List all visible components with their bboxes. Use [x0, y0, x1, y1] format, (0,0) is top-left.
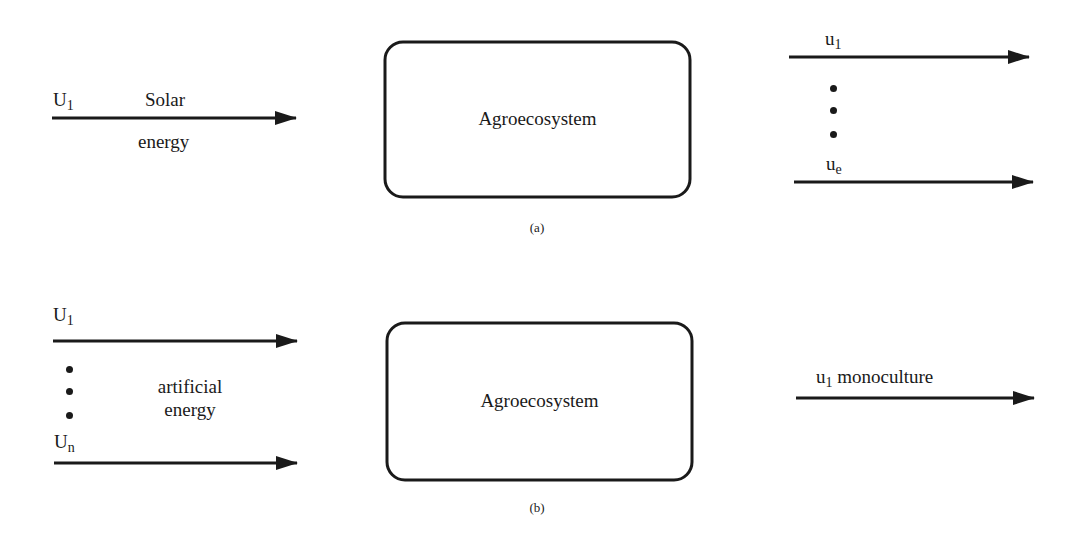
ellipsis-dot — [66, 388, 73, 395]
diagram-canvas — [0, 0, 1091, 540]
input-symbol-U1-a: U1 — [53, 90, 74, 113]
energy-label-b: energy — [130, 400, 250, 419]
output-symbol-ue: ue — [826, 154, 842, 177]
ellipsis-dot — [66, 366, 73, 373]
ellipsis-dot — [830, 85, 837, 92]
ellipsis-dot — [830, 131, 837, 138]
agroecosystem-label-a: Agroecosystem — [385, 108, 690, 130]
output-symbol-u1-monoculture: u1 monoculture — [816, 367, 933, 390]
ellipsis-dot — [66, 412, 73, 419]
input-symbol-Un: Un — [54, 432, 75, 455]
caption-a: (a) — [515, 220, 559, 236]
caption-b: (b) — [515, 500, 559, 516]
output-symbol-u1: u1 — [825, 29, 842, 52]
energy-label: energy — [138, 132, 189, 151]
monoculture-label: monoculture — [837, 366, 933, 387]
artificial-label: artificial — [130, 377, 250, 396]
agroecosystem-label-b: Agroecosystem — [387, 390, 692, 412]
solar-label: Solar — [145, 90, 185, 109]
input-symbol-U1-b: U1 — [53, 305, 74, 328]
ellipsis-dot — [830, 107, 837, 114]
